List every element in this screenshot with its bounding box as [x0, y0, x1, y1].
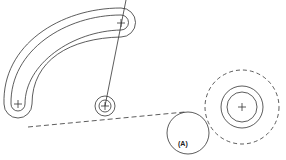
circle-a-label: (A)	[178, 140, 188, 148]
center-mark-slot-bottom	[14, 100, 22, 108]
diagram-canvas: (A)	[0, 0, 286, 160]
slot-inner-outline	[11, 15, 129, 111]
center-mark-small-circle	[101, 102, 109, 110]
center-mark-slot-top	[117, 19, 125, 27]
center-mark-large-circle	[238, 103, 246, 111]
slot-outer-outline	[4, 8, 136, 118]
circle-a	[167, 112, 209, 154]
dashed-tangent-line	[28, 112, 185, 127]
